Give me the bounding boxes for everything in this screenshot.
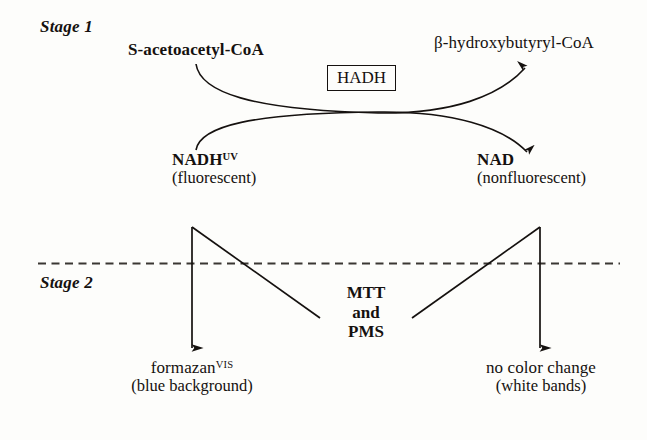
substrate-label: S-acetoacetyl-CoA [128,40,264,59]
cofactor-in-name: NADHUV [172,150,256,169]
cofactor-in-superscript: UV [222,151,238,162]
reagents-group: MTT and PMS [323,283,409,342]
left-product-group: formazanVIS (blue background) [92,358,292,396]
reagent-line-3: PMS [323,322,409,342]
right-product-group: no color change (white bands) [441,358,641,396]
stage-2-label: Stage 2 [40,273,93,292]
left-product-note: (blue background) [92,377,292,395]
cofactor-out-name: NAD [477,150,586,169]
enzyme-box: HADH [327,68,396,87]
cofactor-in-name-text: NADH [172,150,222,169]
reagent-line-2: and [323,303,409,323]
stage-1-label: Stage 1 [40,17,93,36]
enzyme-box-label: HADH [327,65,396,91]
figure-canvas: Stage 1 S-acetoacetyl-CoA β-hydroxybutyr… [0,0,647,440]
right-product-note: (white bands) [441,377,641,395]
diagonal-reagents-to-right [412,227,540,318]
product-label: β-hydroxybutyryl-CoA [434,33,594,52]
right-product-name: no color change [441,358,641,377]
right-product-name-text: no color change [486,358,596,377]
cofactor-out-group: NAD (nonfluorescent) [477,150,586,188]
left-product-name-text: formazan [151,358,216,377]
reagent-line-1: MTT [323,283,409,303]
diagonal-left-to-reagents [192,227,320,318]
curve-nadh-to-nad [196,112,527,152]
cofactor-in-note: (fluorescent) [172,169,256,187]
left-product-name: formazanVIS [92,358,292,377]
cofactor-in-group: NADHUV (fluorescent) [172,150,256,188]
left-product-superscript: VIS [216,359,234,370]
cofactor-out-name-text: NAD [477,150,514,169]
cofactor-out-note: (nonfluorescent) [477,169,586,187]
